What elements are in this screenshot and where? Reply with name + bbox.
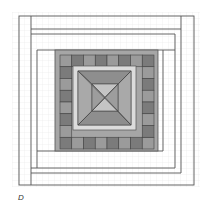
- pyramid-center: [78, 71, 131, 125]
- quilt-block-diagram: [0, 0, 209, 206]
- figure-label: D: [18, 193, 24, 202]
